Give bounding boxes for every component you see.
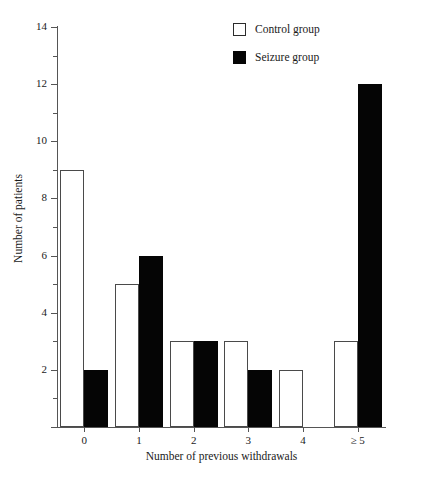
legend-item-control[interactable]: Control group [233,22,320,36]
x-tick-label: 0 [82,434,88,446]
x-tick-label: 4 [300,434,306,446]
x-tick-label: 1 [136,434,142,446]
x-axis-title: Number of previous withdrawals [57,450,386,463]
legend-label: Control group [255,23,320,36]
x-tick [358,427,359,432]
x-tick [139,427,140,432]
x-tick [248,427,249,432]
legend-label: Seizure group [255,51,319,64]
x-tick [303,427,304,432]
x-tick-label: 2 [191,434,197,446]
x-axis-ticks: 01234≥ 5 [0,0,439,477]
x-tick [84,427,85,432]
legend-swatch-icon [233,23,246,36]
legend-swatch-icon [233,51,246,64]
x-tick-label: 3 [246,434,252,446]
legend-item-seizure[interactable]: Seizure group [233,50,320,64]
figure-chart: Number of patients 2468101214 01234≥ 5 N… [0,0,439,477]
chart-legend: Control groupSeizure group [233,22,320,78]
x-tick [194,427,195,432]
x-tick-label: ≥ 5 [351,434,365,446]
